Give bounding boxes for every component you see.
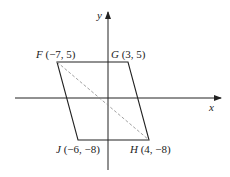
- vertex-label-f: F (−7, 5): [36, 49, 76, 60]
- coordinate-plane: [0, 0, 230, 177]
- vertex-label-h: H (4, −8): [130, 144, 171, 155]
- x-axis-label: x: [209, 102, 214, 113]
- diagonal-fh: [57, 62, 149, 140]
- vertex-label-j: J (−6, −8): [56, 144, 100, 155]
- vertex-label-g: G (3, 5): [111, 49, 146, 60]
- y-axis-label: y: [97, 10, 102, 21]
